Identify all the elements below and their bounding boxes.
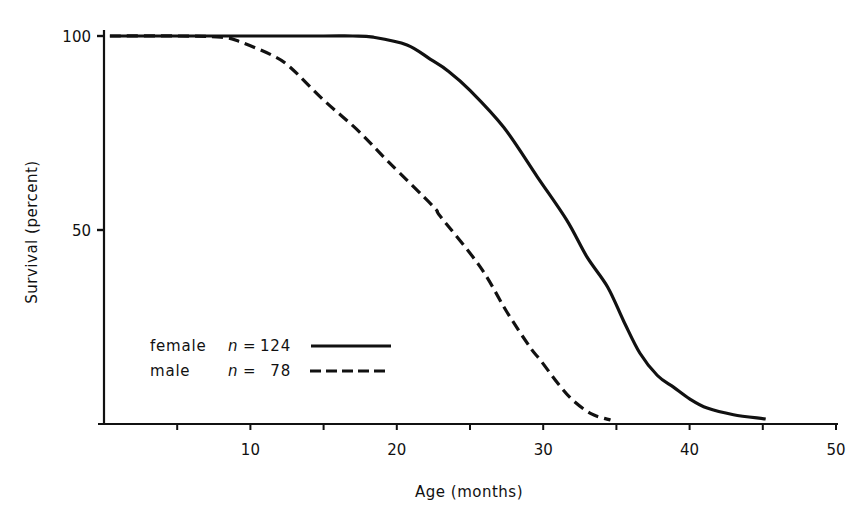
legend-eq: = xyxy=(243,337,256,355)
survival-chart: 1020304050 10050 Survival (percent) Age … xyxy=(0,0,865,511)
legend-item-male: male n = 78 xyxy=(150,362,390,380)
y-tick-label: 50 xyxy=(72,222,91,240)
legend-n-symbol: n xyxy=(228,362,238,380)
x-tick-label: 10 xyxy=(241,441,260,459)
x-tick-label: 40 xyxy=(680,441,699,459)
legend-item-female: female n = 124 xyxy=(150,337,391,355)
legend-count-female: 124 xyxy=(260,337,291,355)
legend-count-male: 78 xyxy=(270,362,291,380)
female-survival-line xyxy=(110,36,766,419)
legend: female n = 124 male n = 78 xyxy=(150,337,391,380)
y-tick-label: 100 xyxy=(62,28,91,46)
legend-n-symbol: n xyxy=(228,337,238,355)
legend-label-female: female xyxy=(150,337,207,355)
axes: 1020304050 10050 xyxy=(62,28,845,459)
x-tick-label: 30 xyxy=(534,441,553,459)
x-tick-label: 20 xyxy=(387,441,406,459)
x-axis-label: Age (months) xyxy=(415,483,523,501)
legend-eq: = xyxy=(243,362,256,380)
y-ticks: 10050 xyxy=(62,28,104,240)
plot-lines xyxy=(110,36,766,420)
y-axis-label: Survival (percent) xyxy=(23,160,41,303)
x-ticks: 1020304050 xyxy=(177,424,845,459)
legend-label-male: male xyxy=(150,362,190,380)
x-tick-label: 50 xyxy=(826,441,845,459)
